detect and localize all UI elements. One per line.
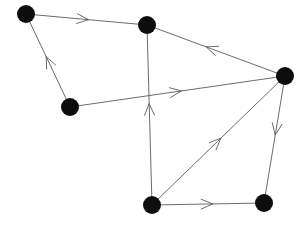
graph-node xyxy=(255,194,273,212)
arrowheads-layer xyxy=(46,14,282,210)
graph-edge xyxy=(155,28,278,73)
graph-node xyxy=(17,5,35,23)
graph-edge xyxy=(147,33,152,197)
directed-graph-figure xyxy=(0,0,302,227)
nodes-layer xyxy=(17,5,294,214)
graph-edge xyxy=(29,21,66,100)
graph-canvas xyxy=(0,0,302,227)
graph-edge xyxy=(34,15,139,25)
graph-edge xyxy=(78,77,277,106)
graph-edge xyxy=(158,82,280,200)
graph-node xyxy=(138,16,156,34)
graph-edge xyxy=(265,84,283,195)
graph-edge xyxy=(160,203,256,205)
graph-node xyxy=(276,67,294,85)
graph-node xyxy=(61,98,79,116)
graph-node xyxy=(143,196,161,214)
